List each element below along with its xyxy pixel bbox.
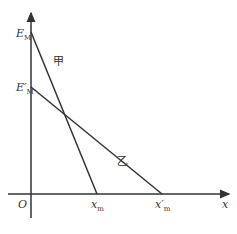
label-yi: 乙	[117, 156, 128, 167]
label-x-m: xm	[91, 199, 104, 213]
diagram: EM E′M 甲 乙 O xm x′m x	[0, 0, 237, 234]
axes-and-lines	[0, 0, 237, 234]
label-E-M: EM	[16, 28, 31, 42]
label-x-prime-m: x′m	[155, 199, 170, 213]
label-E-prime-M: E′M	[16, 82, 34, 96]
line-yi	[31, 87, 162, 194]
label-x-axis: x	[222, 199, 228, 210]
label-jia: 甲	[53, 56, 64, 67]
label-origin: O	[18, 199, 27, 210]
